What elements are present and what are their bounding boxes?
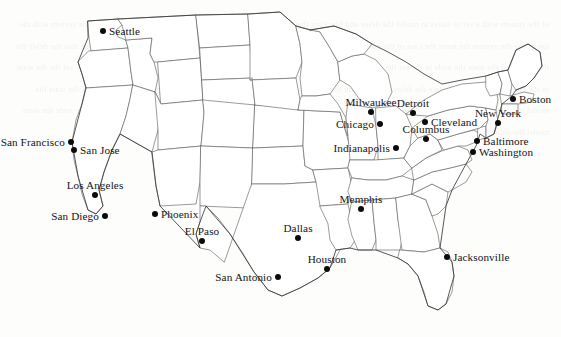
city-label: Detroit [397,98,429,109]
city-label: Columbus [403,124,450,135]
city-label: Indianapolis [333,143,390,154]
city-marker-layer: SeattleSan FranciscoSan JoseLos AngelesS… [0,0,561,337]
city-label: Washington [479,147,533,158]
figure-canvas: of the system with a set of states to mo… [0,0,561,337]
city-label: San Francisco [1,137,65,148]
city-dot-icon [510,96,516,102]
city-label: Milwaukee [345,97,396,108]
city-dot-icon [423,136,429,142]
city-dot-icon [474,138,480,144]
city-dot-icon [92,192,98,198]
city-label: San Jose [80,145,120,156]
city-label: San Antonio [215,272,272,283]
city-label: Jacksonville [453,252,510,263]
city-dot-icon [444,254,450,260]
city-dot-icon [470,149,476,155]
city-dot-icon [102,213,108,219]
city-label: New York [475,108,521,119]
city-dot-icon [100,28,106,34]
city-label: Memphis [340,194,383,205]
city-label: Los Angeles [67,180,124,191]
city-dot-icon [393,145,399,151]
city-dot-icon [275,274,281,280]
city-dot-icon [295,235,301,241]
city-dot-icon [358,206,364,212]
city-label: Phoenix [161,209,198,220]
city-dot-icon [152,211,158,217]
city-dot-icon [324,266,330,272]
city-dot-icon [495,120,501,126]
city-dot-icon [368,109,374,115]
city-label: Dallas [283,223,312,234]
city-label: Seattle [109,26,140,37]
city-dot-icon [71,147,77,153]
city-dot-icon [199,238,205,244]
city-label: Boston [519,94,551,105]
city-label: El Paso [185,226,220,237]
city-dot-icon [377,121,383,127]
city-label: Houston [308,254,347,265]
city-dot-icon [410,110,416,116]
city-dot-icon [68,139,74,145]
city-label: Chicago [336,119,374,130]
city-label: San Diego [51,211,99,222]
